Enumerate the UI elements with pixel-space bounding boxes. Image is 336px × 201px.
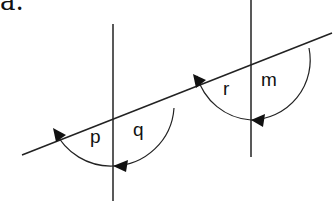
arc-r-m [197,48,310,120]
transversal-line [22,33,332,155]
arrowhead-q-icon [113,160,128,172]
angle-diagram: p q r m [0,0,336,201]
arrowhead-m-icon [251,114,265,127]
angle-label-p: p [90,126,101,147]
angle-label-m: m [261,69,277,90]
angle-label-r: r [223,78,230,99]
arc-p-q [55,108,174,166]
angle-label-q: q [133,119,144,140]
